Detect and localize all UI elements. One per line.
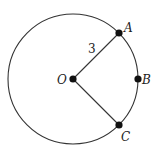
point-c (115, 121, 122, 128)
point-a (115, 29, 122, 36)
segment-oa (73, 33, 119, 79)
label-b: B (141, 73, 151, 87)
radius-label: 3 (88, 42, 96, 56)
diagram-canvas: O A B C 3 (0, 0, 160, 152)
point-o (69, 75, 76, 82)
label-c: C (121, 130, 130, 144)
point-b (134, 75, 141, 82)
segment-oc (73, 79, 119, 125)
label-a: A (123, 21, 133, 35)
label-o: O (57, 73, 67, 87)
circle-diagram: O A B C 3 (0, 0, 160, 152)
